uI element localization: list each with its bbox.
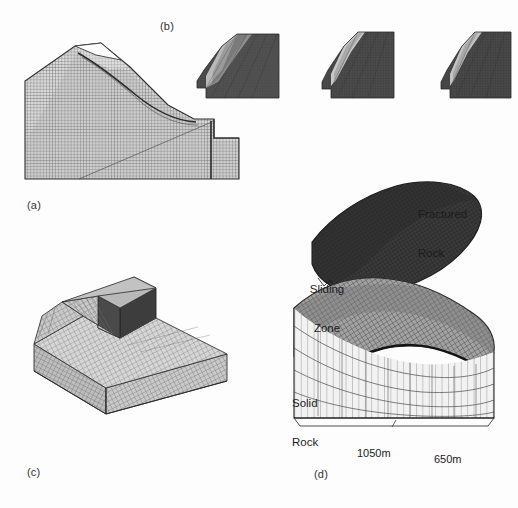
label-sliding-zone-line2: Zone <box>301 322 353 335</box>
label-solid-rock-line1: Solid <box>292 397 318 410</box>
panel-c-svg <box>28 272 233 437</box>
label-sliding-zone-line1: Sliding <box>301 283 353 296</box>
dimension-width-front: 1050m <box>357 447 391 459</box>
label-solid-rock: Solid Rock <box>292 371 318 475</box>
figure-canvas: (a) (b) <box>0 0 518 508</box>
label-fractured-rock-line1: Fractured <box>418 208 467 221</box>
panel-c-3d-block <box>28 272 233 437</box>
panel-c-caption: (c) <box>27 466 40 479</box>
panel-a-bench-step <box>214 119 239 138</box>
label-fractured-rock: Fractured Rock <box>418 182 467 286</box>
panel-b-caption: (b) <box>160 20 174 33</box>
panel-b-frame-1 <box>192 26 279 102</box>
panel-d-caption: (d) <box>314 468 328 481</box>
label-solid-rock-line2: Rock <box>292 436 318 449</box>
panel-b-frame-3 <box>438 26 511 102</box>
dimension-width-side: 650m <box>434 453 462 465</box>
panel-b-frame-2 <box>318 26 394 102</box>
label-fractured-rock-line2: Rock <box>418 247 467 260</box>
panel-a-caption: (a) <box>27 199 41 212</box>
label-sliding-zone: Sliding Zone <box>301 257 353 361</box>
